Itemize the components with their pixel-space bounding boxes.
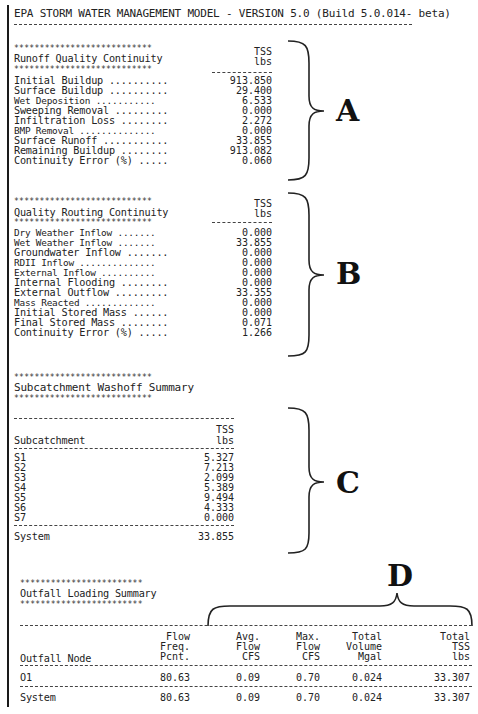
brace-a-icon — [284, 38, 334, 183]
col-max-l3: CFS — [280, 651, 320, 662]
table-top-rule — [20, 625, 472, 626]
col-avg-l3: CFS — [220, 651, 260, 662]
subcatchment-value: 0.000 — [174, 512, 234, 523]
system-freq: 80.63 — [150, 692, 190, 703]
quality-routing-title: Quality Routing Continuity — [14, 207, 168, 218]
col-tss-l3: lbs — [420, 651, 470, 662]
table-top-rule — [14, 418, 234, 419]
routing-unit-rule — [212, 222, 272, 223]
annotation-d: D — [387, 558, 413, 593]
stars-top: ************************ — [20, 580, 143, 588]
system-avg-flow: 0.09 — [220, 692, 260, 703]
system-tss: 33.307 — [420, 692, 470, 703]
outfall-avg-flow: 0.09 — [220, 672, 260, 683]
stars-bottom: *************************** — [14, 66, 152, 74]
outfall-max-flow: 0.70 — [280, 672, 320, 683]
report-title: EPA STORM WATER MANAGEMENT MODEL - VERSI… — [14, 8, 451, 19]
title-underline — [14, 24, 412, 25]
washoff-title: Subcatchment Washoff Summary — [14, 382, 194, 393]
stars-bottom: *************************** — [14, 395, 152, 403]
row-label: Continuity Error (%) ..... — [14, 155, 168, 166]
runoff-unit-rule — [212, 72, 272, 73]
stars-bottom: *************************** — [14, 219, 152, 227]
system-total-label: System — [14, 531, 50, 542]
stars-bottom: ************************ — [20, 601, 143, 609]
system-volume: 0.024 — [330, 692, 382, 703]
runoff-quality-title: Runoff Quality Continuity — [14, 53, 162, 64]
system-node: System — [20, 692, 56, 703]
brace-d-icon — [200, 590, 478, 630]
row-value: 1.266 — [212, 327, 272, 338]
header-rule — [20, 665, 472, 666]
col-node-header: Outfall Node — [20, 653, 91, 664]
row-label: Continuity Error (%) ..... — [14, 327, 168, 338]
left-margin-rule — [7, 5, 9, 707]
system-total-value: 33.855 — [174, 531, 234, 542]
outfall-node: O1 — [20, 672, 32, 683]
row-value: 0.060 — [212, 155, 272, 166]
washoff-unit-top: TSS — [174, 424, 234, 435]
annotation-b: B — [336, 256, 361, 291]
routing-unit-bottom: lbs — [212, 208, 272, 219]
runoff-unit-bottom: lbs — [212, 56, 272, 67]
col-volume-l3: Mgal — [330, 651, 382, 662]
outfall-volume: 0.024 — [330, 672, 382, 683]
header-rule — [14, 448, 234, 449]
brace-c-icon — [284, 405, 334, 555]
outfall-title: Outfall Loading Summary — [20, 588, 156, 599]
total-rule — [14, 525, 234, 526]
outfall-tss: 33.307 — [420, 672, 470, 683]
system-max-flow: 0.70 — [280, 692, 320, 703]
total-rule — [20, 686, 472, 687]
col-freq-l3: Pcnt. — [150, 651, 190, 662]
annotation-a: A — [336, 93, 359, 128]
stars-top: *************************** — [14, 45, 152, 53]
washoff-unit-bottom: lbs — [174, 435, 234, 446]
washoff-col-header: Subcatchment — [14, 435, 85, 446]
subcatchment-name: S7 — [14, 512, 26, 523]
outfall-freq: 80.63 — [150, 672, 190, 683]
brace-b-icon — [284, 190, 334, 360]
stars-top: *************************** — [14, 198, 152, 206]
annotation-c: C — [336, 465, 360, 500]
